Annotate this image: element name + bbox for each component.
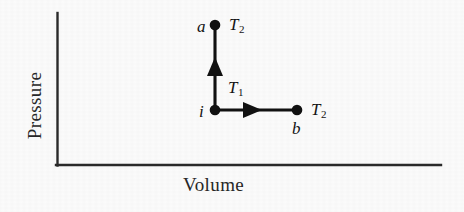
- y-axis-label: Pressure: [25, 46, 44, 166]
- pv-diagram-figure: Pressure Volume a i b T2 T1 T2: [0, 0, 464, 212]
- temp-a-subscript: 2: [239, 23, 245, 35]
- temp-b-symbol: T: [311, 100, 320, 119]
- temp-b-subscript: 2: [321, 108, 327, 120]
- arrowhead-up-i-to-a: [207, 57, 223, 76]
- state-label-b: b: [292, 120, 301, 137]
- state-label-a: a: [197, 18, 206, 35]
- temp-i-symbol: T: [228, 78, 237, 97]
- state-point-i: [210, 105, 221, 116]
- x-axis-label: Volume: [183, 175, 244, 194]
- temperature-label-b: T2: [311, 101, 326, 120]
- state-label-i: i: [199, 103, 204, 120]
- temperature-label-i: T1: [228, 79, 243, 98]
- temp-i-subscript: 1: [238, 86, 244, 98]
- state-point-a: [210, 20, 221, 31]
- arrowhead-right-i-to-b: [243, 102, 262, 118]
- temp-a-symbol: T: [229, 15, 238, 34]
- temperature-label-a: T2: [229, 16, 244, 35]
- state-point-b: [292, 105, 303, 116]
